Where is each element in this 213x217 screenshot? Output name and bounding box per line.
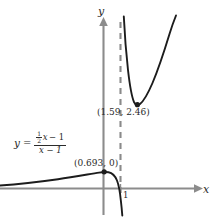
coefficient-denominator: 2 <box>36 138 42 144</box>
equation-equals-sign: = <box>23 138 31 148</box>
curve-right-branch <box>124 16 176 106</box>
numerator-constant: − 1 <box>49 133 64 142</box>
equation-denominator: x − 1 <box>37 146 64 155</box>
x-axis <box>0 184 203 193</box>
equation-coefficient-one-half: 1 2 <box>36 131 42 145</box>
equation-fraction: 1 2 x − 1 x − 1 <box>34 131 66 155</box>
numerator-variable: x <box>43 133 48 142</box>
y-axis-arrowhead <box>99 17 108 26</box>
figure-graph-of-rational-function: y x 1 (1.59, 2.46) (0.693, 0) y = 1 2 x … <box>0 0 213 217</box>
annotation-local-minimum: (1.59, 2.46) <box>97 108 150 117</box>
x-tick-label-one: 1 <box>123 191 128 200</box>
equation-label: y = 1 2 x − 1 x − 1 <box>14 131 66 155</box>
equation-lhs: y <box>14 138 20 149</box>
x-axis-label: x <box>203 184 209 195</box>
annotation-local-maximum: (0.693, 0) <box>74 159 118 168</box>
equation-numerator: 1 2 x − 1 <box>34 131 66 146</box>
marker-local-maximum <box>102 169 107 174</box>
y-axis-label: y <box>98 6 104 17</box>
x-axis-arrowhead <box>194 184 203 193</box>
